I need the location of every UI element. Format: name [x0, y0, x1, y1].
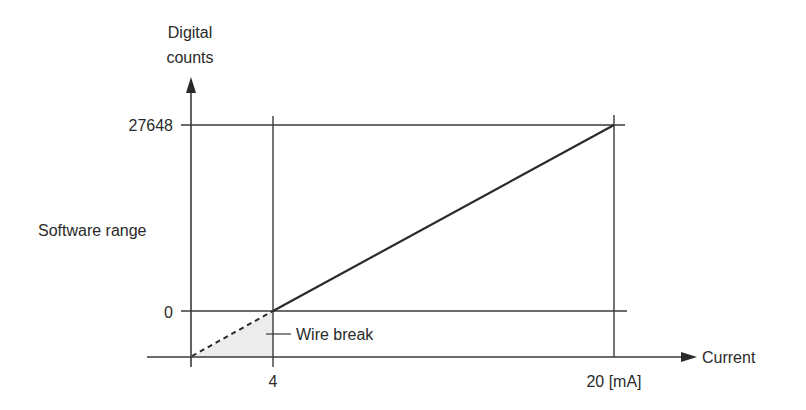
x-axis-arrow-icon [681, 352, 697, 362]
x-axis-label: Current [702, 349, 756, 366]
wire-break-label: Wire break [296, 326, 374, 343]
wire-break-diagram: Digital counts 27648 Software range 0 Wi… [0, 0, 806, 410]
x-tick-4: 4 [269, 373, 278, 390]
x-tick-20: 20 [mA] [586, 373, 641, 390]
y-axis-arrow-icon [186, 77, 196, 93]
y-axis-label-line2: counts [166, 49, 213, 66]
y-axis-label-line1: Digital [168, 24, 212, 41]
y-tick-27648: 27648 [129, 117, 174, 134]
characteristic-line [273, 125, 614, 311]
software-range-label: Software range [38, 222, 147, 239]
y-tick-0: 0 [164, 304, 173, 321]
